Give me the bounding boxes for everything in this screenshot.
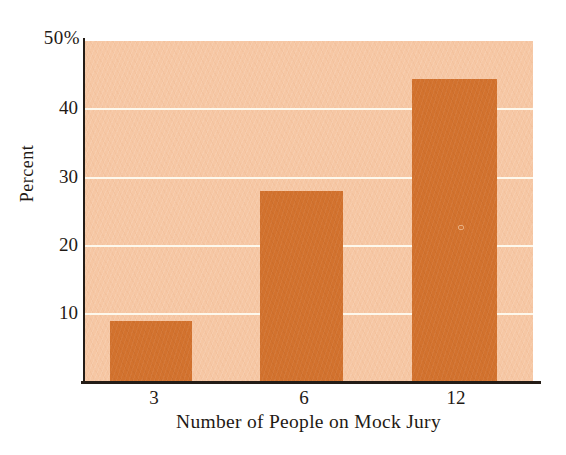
print-artifact-dot — [458, 225, 464, 230]
bar-12-people — [412, 79, 497, 382]
bar-6-people — [260, 191, 343, 382]
plot-area — [84, 41, 533, 382]
y-axis-line — [83, 38, 85, 384]
bar-chart-figure: 50% 40 30 20 10 Percent 3 6 12 Number of… — [0, 0, 566, 455]
x-tick-label-12: 12 — [426, 387, 486, 409]
y-axis-max-label: 50% — [0, 27, 80, 49]
x-axis-line — [81, 381, 541, 384]
y-tick-label-40: 40 — [0, 98, 78, 117]
y-tick-label-20: 20 — [0, 235, 78, 254]
x-tick-label-6: 6 — [274, 387, 334, 409]
y-tick-label-10: 10 — [0, 303, 78, 322]
bar-3-people — [110, 321, 192, 382]
y-axis-title: Percent — [17, 104, 38, 244]
x-axis-title: Number of People on Mock Jury — [84, 411, 533, 433]
x-tick-label-3: 3 — [124, 387, 184, 409]
y-tick-label-30: 30 — [0, 167, 78, 186]
